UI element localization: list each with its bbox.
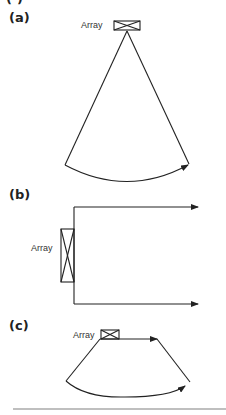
cropped-label: (·) (6, 0, 23, 6)
panel-a-array-label: Array (81, 20, 103, 30)
scan-format-diagram: (·) (a) Array (b) Array (c) Array (0, 0, 226, 415)
trapezoid-arc-arrow (66, 381, 185, 397)
panel-b: (b) Array (9, 187, 198, 304)
sector-left-edge (65, 31, 127, 165)
trapezoid-left-edge (66, 339, 100, 381)
sector-right-edge (127, 31, 189, 164)
panel-c-array-label: Array (73, 330, 95, 340)
panel-b-label: (b) (9, 187, 30, 202)
panel-a-label: (a) (9, 10, 30, 25)
array-icon (114, 21, 140, 30)
panel-a: (a) Array (9, 10, 189, 182)
array-icon (101, 330, 119, 339)
panel-c-label: (c) (9, 318, 29, 333)
sector-arc-arrow (65, 165, 188, 182)
panel-c: (c) Array (9, 318, 190, 397)
array-icon (61, 229, 74, 282)
trapezoid-right-edge (157, 339, 190, 382)
panel-b-array-label: Array (31, 243, 53, 253)
